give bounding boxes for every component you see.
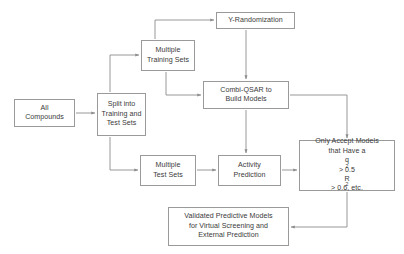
node-combi-qsar-to-build-models[interactable]: Combi-QSAR to Build Models (203, 81, 289, 109)
node-validated-line-1: Validated Predictive Models (169, 212, 288, 221)
r-threshold: > 0.6, etc. (300, 184, 394, 193)
edge-combi-qsar-to-only-accept (290, 95, 347, 138)
node-only-accept-models[interactable]: Only Accept Models that Have a q2 > 0.5 … (299, 140, 395, 191)
node-multiple-test-sets[interactable]: Multiple Test Sets (140, 155, 196, 186)
node-validated-predictive-models[interactable]: Validated Predictive Models for Virtual … (168, 207, 289, 246)
node-multiple-test-sets-line-2: Test Sets (141, 171, 195, 180)
node-activity-prediction-line-1: Activity (219, 161, 280, 170)
node-multiple-training-sets-line-2: Training Sets (142, 56, 194, 65)
node-split-line-2: Training and (98, 110, 145, 119)
node-split-line-3: Test Sets (98, 119, 145, 128)
node-activity-prediction-line-2: Prediction (219, 171, 280, 180)
node-y-randomization[interactable]: Y-Randomization (216, 12, 295, 29)
q-threshold: > 0.5 (300, 166, 394, 175)
node-only-accept-line-1: Only Accept Models (300, 137, 394, 146)
node-y-randomization-line-1: Y-Randomization (217, 16, 294, 25)
node-all-compounds[interactable]: All Compounds (14, 99, 75, 127)
node-multiple-training-sets[interactable]: Multiple Training Sets (141, 40, 195, 71)
node-validated-line-3: External Prediction (169, 231, 288, 240)
node-only-accept-line-4: R2 > 0.6, etc. (300, 175, 394, 194)
node-combi-qsar-line-1: Combi-QSAR to (204, 86, 288, 95)
node-only-accept-line-2: that Have a (300, 147, 394, 156)
node-split-line-1: Split into (98, 100, 145, 109)
edge-multiple-training-sets-to-combi-qsar (166, 72, 201, 95)
node-multiple-test-sets-line-1: Multiple (141, 161, 195, 170)
node-all-compounds-line-1: All (15, 104, 74, 113)
node-validated-line-2: for Virtual Screening and (169, 222, 288, 231)
node-combi-qsar-line-2: Build Models (204, 95, 288, 104)
edge-multiple-training-sets-to-y-randomization (155, 20, 214, 39)
flowchart-canvas: All Compounds Split into Training and Te… (0, 0, 404, 254)
edge-split-to-multiple-training-sets (110, 55, 139, 92)
node-only-accept-line-3: q2 > 0.5 (300, 156, 394, 175)
node-activity-prediction[interactable]: Activity Prediction (218, 155, 281, 186)
edge-only-accept-to-validated (291, 192, 347, 227)
node-multiple-training-sets-line-1: Multiple (142, 46, 194, 55)
node-all-compounds-line-2: Compounds (15, 113, 74, 122)
edge-split-to-multiple-test-sets (110, 137, 138, 170)
node-split-into-training-and-test-sets[interactable]: Split into Training and Test Sets (97, 93, 146, 136)
